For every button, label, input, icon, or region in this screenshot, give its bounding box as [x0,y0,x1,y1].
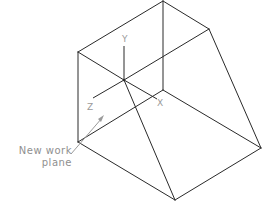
edge-top-right [163,1,209,29]
origin-point [123,79,126,82]
y-axis-label: Y [121,34,128,44]
z-axis-label: Z [87,102,93,112]
x-axis-label: X [157,98,163,108]
wireframe-solid: Y Z X [0,0,266,211]
callout-line-2: plane [8,157,72,169]
ucs-axes: Y Z X [87,34,163,112]
edge-bottom-front-left [78,142,175,200]
edge-top-left [78,1,163,52]
edge-slant-top [124,29,209,80]
edge-bottom-front-right [175,148,261,200]
diagram-canvas: Y Z X New work plane [0,0,266,211]
callout-label: New work plane [8,145,72,169]
edge-bottom-back-left [78,90,163,142]
callout-line-1: New work [8,145,72,157]
edge-bottom-back-right [163,90,261,148]
solid-edges [78,1,261,200]
edge-top-front [78,52,124,80]
z-axis-line [93,80,124,98]
leader-line [71,118,102,154]
x-axis-line [124,80,157,99]
edge-right-slant [209,29,261,148]
